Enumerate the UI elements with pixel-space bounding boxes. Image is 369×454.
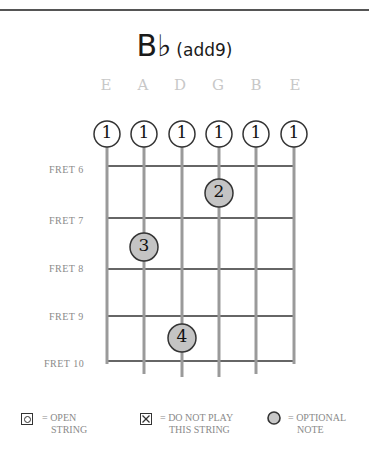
barre-label-1: 1 bbox=[97, 122, 117, 142]
legend-optional: = OPTIONAL NOTE bbox=[288, 412, 346, 436]
fret-label-6: FRET 6 bbox=[49, 164, 84, 175]
fretboard bbox=[0, 0, 369, 454]
optional-note-icon bbox=[268, 412, 280, 424]
legend-mute: = DO NOT PLAY THIS STRING bbox=[160, 412, 233, 436]
barre-label-2: 1 bbox=[134, 122, 154, 142]
fret-lines bbox=[107, 166, 294, 361]
legend-open: = OPEN STRING bbox=[42, 412, 87, 436]
fret-label-7: FRET 7 bbox=[49, 215, 84, 226]
finger-label-2: 2 bbox=[209, 181, 229, 201]
barre-label-4: 1 bbox=[209, 122, 229, 142]
finger-label-4: 4 bbox=[172, 326, 192, 346]
barre-label-3: 1 bbox=[172, 122, 192, 142]
finger-label-3: 3 bbox=[134, 235, 154, 255]
fret-label-8: FRET 8 bbox=[49, 263, 84, 274]
open-string-icon bbox=[21, 413, 33, 425]
fret-label-10: FRET 10 bbox=[44, 358, 84, 369]
mute-string-icon bbox=[140, 413, 152, 425]
barre-label-5: 1 bbox=[246, 122, 266, 142]
string-lines bbox=[107, 146, 294, 377]
barre-label-6: 1 bbox=[284, 122, 304, 142]
fret-label-9: FRET 9 bbox=[49, 311, 84, 322]
